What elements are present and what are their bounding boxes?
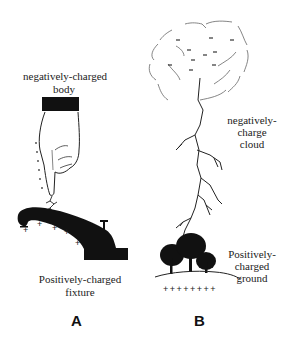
cloud-label-line1: negatively- xyxy=(222,114,282,126)
svg-text:+: + xyxy=(52,223,57,233)
sleeve-cuff xyxy=(42,97,79,111)
panel-label-b: B xyxy=(194,312,205,329)
svg-text:+: + xyxy=(64,227,69,237)
faucet-illustration xyxy=(18,207,128,260)
trees-illustration xyxy=(160,233,216,274)
svg-text:+: + xyxy=(37,219,42,229)
ground-label-line2: charged xyxy=(222,260,282,272)
fixture-label-line2: fixture xyxy=(30,286,130,298)
cloud-label-line3: cloud xyxy=(222,138,282,150)
ground-charges: + + + + + + + + xyxy=(158,283,220,295)
panel-label-a: A xyxy=(71,312,82,329)
hand-illustration xyxy=(35,97,79,212)
ground-label-line3: ground xyxy=(222,272,282,284)
lightning-bolt-icon xyxy=(176,78,222,240)
hand-outline xyxy=(39,112,79,195)
cloud-charges xyxy=(168,38,234,70)
body-label-line2: body xyxy=(23,83,105,95)
svg-text:+: + xyxy=(75,238,80,248)
cloud-label-line2: charge xyxy=(222,126,282,138)
svg-text:+: + xyxy=(23,225,28,235)
fixture-label-line1: Positively-charged xyxy=(30,273,130,285)
body-label-line1: negatively-charged xyxy=(23,70,105,82)
ground-label-line1: Positively- xyxy=(222,248,282,260)
